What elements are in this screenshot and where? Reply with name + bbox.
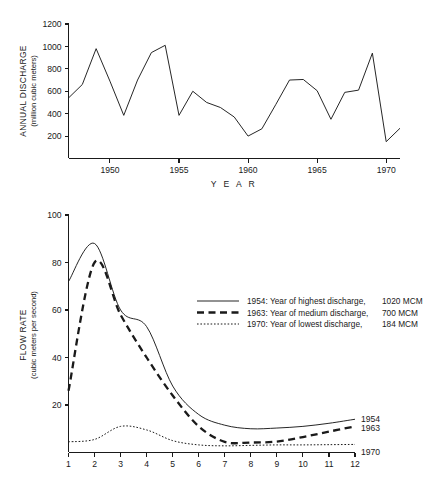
x-tick-label: 10 <box>298 459 308 469</box>
legend-label-1963: 1963: Year of medium discharge,700 MCM <box>247 308 418 318</box>
x-tick-label: 1955 <box>169 165 188 175</box>
legend-descriptor: Year of medium discharge, <box>270 308 368 318</box>
legend-year: 1963: <box>247 308 270 318</box>
legend-volume: 184 MCM <box>382 319 418 329</box>
figure-container: 12001000800600400200 1950195519601965197… <box>0 0 445 481</box>
legend-descriptor: Year of highest discharge, <box>270 296 366 306</box>
y-tick-label: 100 <box>47 210 62 220</box>
x-tick-label: 6 <box>196 459 201 469</box>
y-tick-marks <box>65 215 69 405</box>
series-end-labels: 195419631970 <box>361 414 380 457</box>
y-axis-title: FLOW RATE <box>18 309 28 360</box>
y-axis-subtitle: (cubic meters per second) <box>29 291 38 379</box>
y-tick-label: 1200 <box>42 19 61 29</box>
y-axis-subtitle: (million cubic meters) <box>29 55 38 127</box>
y-tick-label: 200 <box>47 131 62 141</box>
x-axis-group: 123456789101112 <box>66 453 360 469</box>
x-tick-label: 9 <box>274 459 279 469</box>
y-tick-label: 20 <box>52 400 62 410</box>
annual-discharge-chart: 12001000800600400200 1950195519601965197… <box>0 0 445 200</box>
x-tick-labels: 19501955196019651970 <box>100 165 396 175</box>
series-line-1954 <box>69 243 356 429</box>
x-tick-label: 11 <box>324 459 333 469</box>
x-tick-label: 1960 <box>239 165 258 175</box>
x-tick-label: 1970 <box>377 165 396 175</box>
y-axis-group: 10080604020 <box>47 210 68 452</box>
flow-rate-series-group <box>69 243 356 446</box>
monthly-flow-rate-chart: 10080604020 123456789101112 FLOW RATE (c… <box>0 200 445 481</box>
legend-volume: 1020 MCM <box>382 296 423 306</box>
x-tick-labels: 123456789101112 <box>66 459 360 469</box>
y-axis-subtitle-group: (cubic meters per second) <box>29 291 38 379</box>
y-axis-title-group: ANNUAL DISCHARGE <box>18 45 28 136</box>
end-label-1970: 1970 <box>361 447 380 457</box>
legend-year: 1970: <box>247 319 270 329</box>
y-tick-marks <box>65 24 69 136</box>
legend-volume: 700 MCM <box>382 308 418 318</box>
x-tick-label: 8 <box>248 459 253 469</box>
x-tick-marks <box>69 453 356 457</box>
legend-descriptor: Year of lowest discharge, <box>270 319 362 329</box>
y-tick-label: 1000 <box>42 42 61 52</box>
y-tick-label: 40 <box>52 353 62 363</box>
y-tick-labels: 10080604020 <box>47 210 62 410</box>
x-tick-label: 1 <box>66 459 71 469</box>
y-axis-subtitle-group: (million cubic meters) <box>29 55 38 127</box>
legend-label-1970: 1970: Year of lowest discharge,184 MCM <box>247 319 418 329</box>
legend-year: 1954: <box>247 296 270 306</box>
x-tick-label: 4 <box>144 459 149 469</box>
y-axis-title-group: FLOW RATE <box>18 309 28 360</box>
y-tick-label: 600 <box>47 86 62 96</box>
x-tick-label: 3 <box>118 459 123 469</box>
legend-label-1954: 1954: Year of highest discharge,1020 MCM <box>247 296 423 306</box>
x-tick-label: 1950 <box>100 165 119 175</box>
x-axis-title: Y E A R <box>211 179 257 189</box>
x-tick-label: 1965 <box>308 165 327 175</box>
end-label-1963: 1963 <box>361 423 380 433</box>
y-tick-label: 400 <box>47 109 62 119</box>
y-tick-labels: 12001000800600400200 <box>42 19 61 141</box>
annual-discharge-series-line <box>69 45 401 141</box>
y-tick-label: 800 <box>47 64 62 74</box>
x-tick-label: 2 <box>92 459 97 469</box>
series-line-1963 <box>69 260 356 443</box>
x-tick-label: 7 <box>222 459 227 469</box>
legend: 1954: Year of highest discharge,1020 MCM… <box>197 296 423 329</box>
annual-discharge-svg: 12001000800600400200 1950195519601965197… <box>0 0 445 200</box>
x-tick-marks <box>110 159 386 163</box>
monthly-flow-rate-svg: 10080604020 123456789101112 FLOW RATE (c… <box>0 200 445 481</box>
y-tick-label: 80 <box>52 258 62 268</box>
y-tick-label: 60 <box>52 305 62 315</box>
y-axis-group: 12001000800600400200 <box>42 19 68 158</box>
x-tick-label: 5 <box>170 459 175 469</box>
x-axis-group: 19501955196019651970 <box>69 159 401 175</box>
x-tick-label: 12 <box>350 459 360 469</box>
y-axis-title: ANNUAL DISCHARGE <box>18 45 28 136</box>
